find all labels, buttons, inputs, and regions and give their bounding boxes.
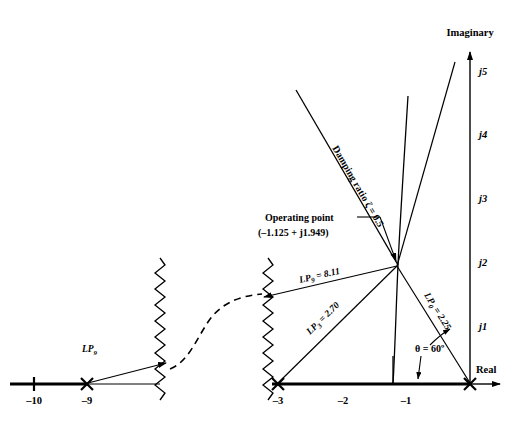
tick-label-minus3: –3 bbox=[272, 395, 284, 406]
jtick-label-j4: j4 bbox=[477, 129, 487, 140]
vector-label-lp9-left: LP9 bbox=[81, 344, 98, 357]
dashed-connector-curve bbox=[170, 294, 262, 369]
imaginary-axis-label: Imaginary bbox=[446, 27, 494, 38]
axis-break-zigzag-left bbox=[155, 258, 165, 400]
damping-ratio-label: Damping ratio ζ = 0.5 bbox=[329, 143, 386, 229]
root-locus-branch bbox=[393, 96, 408, 384]
tick-label-minus9: –9 bbox=[81, 395, 93, 406]
left-panel: –10 –9 LP9 bbox=[10, 258, 166, 406]
vector-origin-to-j5 bbox=[397, 62, 455, 266]
jtick-label-j3: j3 bbox=[477, 193, 487, 204]
vector-lp9-left bbox=[88, 363, 166, 383]
figure-canvas: –10 –9 LP9 Real bbox=[0, 0, 522, 429]
vector-label-lp0: LP0 = 2.25 bbox=[420, 290, 453, 333]
real-axis-label: Real bbox=[476, 364, 496, 375]
vector-lp3 bbox=[278, 266, 397, 383]
tick-label-minus1: –1 bbox=[400, 395, 412, 406]
jtick-label-j5: j5 bbox=[477, 66, 487, 77]
vector-lp0 bbox=[397, 266, 470, 383]
jtick-label-j2: j2 bbox=[477, 257, 488, 268]
operating-point-value: (–1.125 + j1.949) bbox=[258, 227, 329, 239]
vector-label-lp3: LP3 = 2.70 bbox=[304, 300, 344, 339]
right-panel: Real Imaginary –3 –2 –1 j1 j2 bbox=[258, 27, 500, 406]
operating-point-title: Operating point bbox=[265, 212, 334, 223]
imaginary-ticks: j1 j2 j3 j4 j5 bbox=[477, 66, 488, 332]
root-locus-figure: –10 –9 LP9 Real bbox=[0, 0, 522, 429]
theta-arrow-lower bbox=[418, 356, 421, 379]
tick-label-minus2: –2 bbox=[337, 395, 349, 406]
jtick-label-j1: j1 bbox=[477, 321, 487, 332]
tick-label-minus10: –10 bbox=[25, 395, 42, 406]
